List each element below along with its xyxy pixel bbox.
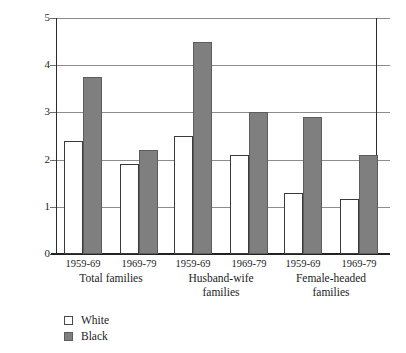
period-label-g0-p0: 1959-69	[57, 258, 109, 269]
legend-label-black: Black	[81, 330, 108, 342]
bar-white-g2-p0	[284, 193, 303, 254]
period-label-g1-p1: 1969-79	[223, 258, 275, 269]
period-label-g0-p1: 1969-79	[113, 258, 165, 269]
group-label-0: Total families	[61, 272, 161, 286]
plot-area	[56, 18, 377, 254]
legend: White Black	[64, 312, 109, 344]
gridline-5	[56, 18, 390, 19]
group-label-0-line-0: Total families	[61, 272, 161, 286]
bar-black-g2-p1	[359, 155, 378, 254]
group-label-1: Husband-wifefamilies	[171, 272, 271, 299]
group-label-2-line-0: Female-headed	[281, 272, 381, 286]
y-tick-label-0: 0	[38, 247, 50, 259]
bar-white-g1-p1	[230, 155, 249, 254]
y-tick-label-4: 4	[38, 58, 50, 70]
bar-black-g1-p1	[249, 112, 268, 254]
legend-swatch-white-icon	[64, 316, 73, 325]
legend-label-white: White	[81, 314, 109, 326]
bar-white-g1-p0	[174, 136, 193, 254]
period-label-g2-p1: 1969-79	[333, 258, 385, 269]
group-label-2-line-1: families	[281, 286, 381, 300]
bar-black-g0-p1	[139, 150, 158, 254]
bar-white-g0-p1	[120, 164, 139, 254]
y-axis-line	[56, 18, 57, 254]
legend-swatch-black-icon	[64, 332, 73, 341]
y-tick-label-1: 1	[38, 200, 50, 212]
gridline-4	[56, 65, 390, 66]
bar-black-g1-p0	[193, 42, 212, 254]
group-label-1-line-0: Husband-wife	[171, 272, 271, 286]
legend-item-black[interactable]: Black	[64, 328, 109, 344]
period-label-g1-p0: 1959-69	[167, 258, 219, 269]
y-tick-label-2: 2	[38, 153, 50, 165]
bar-black-g2-p0	[303, 117, 322, 254]
bar-white-g0-p0	[64, 141, 83, 254]
bar-white-g2-p1	[340, 199, 359, 254]
gridline-2	[56, 160, 390, 161]
bar-black-g0-p0	[83, 77, 102, 254]
y-tick-label-3: 3	[38, 105, 50, 117]
legend-item-white[interactable]: White	[64, 312, 109, 328]
period-label-g2-p0: 1959-69	[277, 258, 329, 269]
bar-chart: Annual growth rate (%) 012345 1959-69196…	[0, 0, 406, 353]
y-tick-label-5: 5	[38, 11, 50, 23]
group-label-1-line-1: families	[171, 286, 271, 300]
group-label-2: Female-headedfamilies	[281, 272, 381, 299]
gridline-3	[56, 112, 390, 113]
